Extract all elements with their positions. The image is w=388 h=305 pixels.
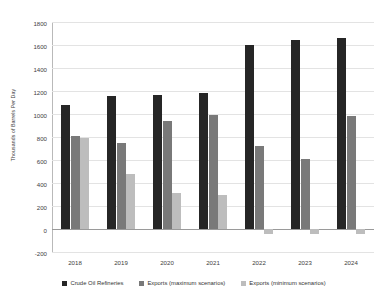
legend-label: Crude Oil Refineries — [70, 280, 123, 286]
bar-group: 2023 — [282, 22, 328, 252]
legend-item[interactable]: Exports (maximum scenarios) — [139, 280, 225, 286]
bar-group: 2018 — [52, 22, 98, 252]
legend-label: Exports (minimum scenarios) — [249, 280, 325, 286]
y-tick-label: 1800 — [33, 20, 47, 27]
legend-item[interactable]: Exports (minimum scenarios) — [241, 280, 325, 286]
bar — [209, 115, 218, 229]
legend-label: Exports (maximum scenarios) — [147, 280, 225, 286]
bar — [163, 121, 172, 229]
bar — [264, 229, 273, 234]
bar — [80, 138, 89, 229]
y-tick-label: 600 — [37, 158, 47, 165]
y-tick-label: 1600 — [33, 43, 47, 50]
bars — [190, 22, 236, 252]
bars — [52, 22, 98, 252]
y-tick-label: 400 — [37, 181, 47, 188]
bars — [98, 22, 144, 252]
legend-swatch-icon — [62, 281, 67, 286]
bars — [282, 22, 328, 252]
bar — [126, 174, 135, 229]
y-tick-label: 800 — [37, 135, 47, 142]
y-tick-label: 1400 — [33, 66, 47, 73]
bar — [199, 93, 208, 229]
bar — [310, 229, 319, 234]
y-tick-label: -200 — [35, 250, 47, 257]
bar — [245, 45, 254, 229]
y-axis-title-text: Thousands of Barrels Per Day — [10, 89, 16, 161]
bar-chart: Thousands of Barrels Per Day -2000200400… — [0, 0, 388, 305]
gridline: -200 — [52, 252, 374, 253]
x-tick-label: 2020 — [160, 259, 174, 266]
bars — [236, 22, 282, 252]
bar — [153, 95, 162, 229]
bar — [301, 159, 310, 229]
x-tick-label: 2024 — [344, 259, 358, 266]
x-tick-label: 2019 — [114, 259, 128, 266]
y-tick-label: 1000 — [33, 112, 47, 119]
bar — [337, 38, 346, 229]
x-tick-label: 2021 — [206, 259, 220, 266]
bar — [347, 116, 356, 229]
legend-swatch-icon — [241, 281, 246, 286]
plot-area: -200020040060080010001200140016001800 20… — [52, 22, 374, 252]
bar-group: 2021 — [190, 22, 236, 252]
bar — [117, 143, 126, 229]
y-tick-label: 200 — [37, 204, 47, 211]
bar — [107, 96, 116, 229]
bar — [71, 136, 80, 229]
bar — [356, 229, 365, 234]
bar — [61, 105, 70, 229]
x-tick-label: 2018 — [68, 259, 82, 266]
bar-group: 2020 — [144, 22, 190, 252]
bars — [144, 22, 190, 252]
bar — [255, 146, 264, 229]
y-axis-title: Thousands of Barrels Per Day — [3, 0, 23, 250]
x-tick-label: 2022 — [252, 259, 266, 266]
bar-group: 2019 — [98, 22, 144, 252]
y-tick-label: 1200 — [33, 89, 47, 96]
bars — [328, 22, 374, 252]
y-tick-label: 0 — [44, 227, 47, 234]
bar-group: 2024 — [328, 22, 374, 252]
bar-group: 2022 — [236, 22, 282, 252]
bar — [291, 40, 300, 229]
legend-swatch-icon — [139, 281, 144, 286]
bar — [218, 195, 227, 230]
x-tick-label: 2023 — [298, 259, 312, 266]
chart-legend: Crude Oil RefineriesExports (maximum sce… — [0, 280, 388, 286]
bar — [172, 193, 181, 229]
legend-item[interactable]: Crude Oil Refineries — [62, 280, 123, 286]
bar-groups: 2018201920202021202220232024 — [52, 22, 374, 252]
